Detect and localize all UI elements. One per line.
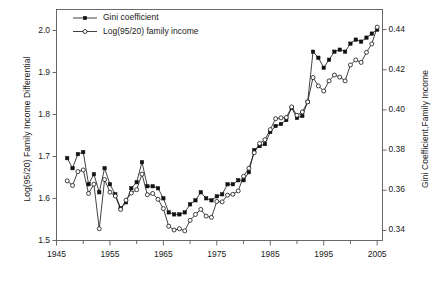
x-tick-1985: 1985 — [254, 249, 286, 259]
x-tick-1955: 1955 — [94, 249, 126, 259]
legend-label-gini: Gini coefficient — [103, 12, 159, 22]
series-gini — [65, 28, 378, 216]
y-tick-left-1.5: 1.5 — [26, 235, 50, 245]
y-tick-right-0.36: 0.36 — [389, 184, 406, 194]
x-tick-2005: 2005 — [361, 249, 393, 259]
plot-area — [0, 0, 435, 283]
y-tick-left-2.0: 2.0 — [26, 25, 50, 35]
x-tick-1995: 1995 — [308, 249, 340, 259]
y-tick-right-0.42: 0.42 — [389, 64, 406, 74]
y-tick-left-1.7: 1.7 — [26, 151, 50, 161]
y-tick-right-0.38: 0.38 — [389, 144, 406, 154]
y-tick-right-0.34: 0.34 — [389, 224, 406, 234]
chart-figure: Log(95/20) Family Income Differential Gi… — [0, 0, 435, 283]
x-tick-1975: 1975 — [201, 249, 233, 259]
y-tick-right-0.40: 0.40 — [389, 104, 406, 114]
y-tick-right-0.44: 0.44 — [389, 24, 406, 34]
y-tick-left-1.9: 1.9 — [26, 67, 50, 77]
y-tick-left-1.8: 1.8 — [26, 109, 50, 119]
x-tick-1965: 1965 — [147, 249, 179, 259]
legend-label-log9520: Log(95/20) family income — [103, 26, 198, 36]
series-log9520 — [65, 25, 379, 233]
y-tick-left-1.6: 1.6 — [26, 193, 50, 203]
x-tick-1945: 1945 — [41, 249, 73, 259]
